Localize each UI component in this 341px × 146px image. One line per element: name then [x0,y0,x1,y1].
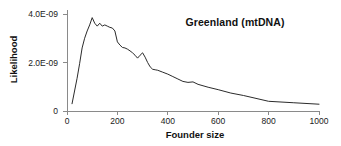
x-tick-label-5: 1000 [299,116,339,126]
x-tick-label-1: 200 [97,116,137,126]
x-tick-label-2: 400 [148,116,188,126]
x-tick-label-4: 800 [249,116,289,126]
y-tick-label-2: 4.0E-09 [12,9,58,19]
x-axis-ticks [67,111,319,115]
likelihood-curve [72,18,319,105]
chart-figure: Greenland (mtDNA) Founder size Likelihoo… [0,0,341,146]
x-tick-label-3: 600 [198,116,238,126]
y-axis-ticks [63,14,67,111]
x-axis-title: Founder size [110,129,280,140]
y-tick-label-0: 0 [12,106,58,116]
chart-title: Greenland (mtDNA) [160,16,310,28]
x-tick-label-0: 0 [47,116,87,126]
y-tick-label-1: 2.0E-09 [12,58,58,68]
